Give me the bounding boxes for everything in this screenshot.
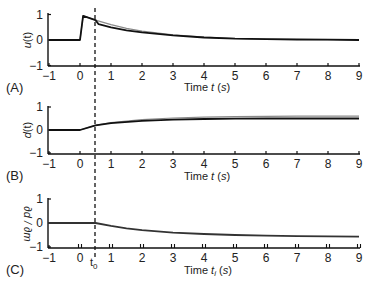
x-tick-label: 7 bbox=[294, 157, 301, 171]
x-tick-label: 9 bbox=[356, 69, 363, 83]
x-tick-label: 7 bbox=[294, 251, 301, 265]
y-tick-label: 1 bbox=[36, 192, 43, 206]
y-tick-label: 1 bbox=[36, 100, 43, 114]
x-tick-label: 6 bbox=[263, 69, 270, 83]
x-tick-label: 4 bbox=[201, 251, 208, 265]
x-tick-label: 1 bbox=[108, 251, 115, 265]
x-tick-label: 6 bbox=[263, 157, 270, 171]
x-tick-label: −1 bbox=[42, 251, 56, 265]
x-tick-label: 1 bbox=[108, 157, 115, 171]
x-tick-label: 3 bbox=[170, 69, 177, 83]
t0-label: t0 bbox=[90, 256, 98, 271]
x-tick-label: 0 bbox=[77, 251, 84, 265]
x-tick-label: 2 bbox=[139, 251, 146, 265]
xlabel-a: Time t (s) bbox=[184, 81, 230, 93]
panel-label-a: (A) bbox=[6, 80, 23, 95]
x-tick-label: 7 bbox=[294, 69, 301, 83]
panel-a: −101−10123456789 bbox=[29, 8, 362, 84]
y-tick-label: 1 bbox=[36, 8, 43, 22]
ylabel-b: d(t) bbox=[21, 122, 33, 139]
ylabel-a: u(t) bbox=[21, 32, 33, 49]
panel-b: −101−10123456789 bbox=[29, 100, 362, 171]
panel-label-c: (C) bbox=[6, 262, 24, 277]
x-tick-label: 5 bbox=[232, 69, 239, 83]
x-tick-label: 9 bbox=[356, 251, 363, 265]
figure: −101−10123456789 −101−10123456789 −101−1… bbox=[0, 0, 370, 287]
x-tick-label: 4 bbox=[201, 157, 208, 171]
y-tick-label: 0 bbox=[36, 216, 43, 230]
x-tick-label: 3 bbox=[170, 157, 177, 171]
y-tick-label: 0 bbox=[36, 123, 43, 137]
x-tick-label: 5 bbox=[232, 251, 239, 265]
x-tick-label: 0 bbox=[77, 157, 84, 171]
x-tick-label: 5 bbox=[232, 157, 239, 171]
x-tick-label: 8 bbox=[325, 251, 332, 265]
x-tick-label: 2 bbox=[139, 69, 146, 83]
x-tick-label: 9 bbox=[356, 157, 363, 171]
x-tick-label: −1 bbox=[42, 157, 56, 171]
x-tick-label: 8 bbox=[325, 69, 332, 83]
x-tick-label: 3 bbox=[170, 251, 177, 265]
panel-c: −101−10123456789 bbox=[29, 192, 362, 265]
x-tick-label: 0 bbox=[77, 69, 84, 83]
ylabel-c: ∂d / ∂m bbox=[22, 206, 34, 241]
xlabel-c: Time ti (s) bbox=[184, 264, 232, 278]
x-tick-label: 2 bbox=[139, 157, 146, 171]
x-tick-label: 1 bbox=[108, 69, 115, 83]
x-tick-label: 6 bbox=[263, 251, 270, 265]
x-tick-label: −1 bbox=[42, 69, 56, 83]
panel-label-b: (B) bbox=[6, 168, 23, 183]
y-tick-label: 0 bbox=[36, 33, 43, 47]
x-tick-label: 8 bbox=[325, 157, 332, 171]
xlabel-b: Time t (s) bbox=[184, 170, 230, 182]
